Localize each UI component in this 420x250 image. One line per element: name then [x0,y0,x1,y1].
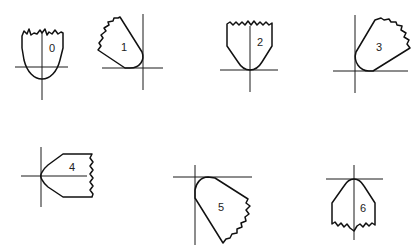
profile-2: 2 [220,21,278,92]
profile-label: 2 [257,36,263,48]
profile-label: 1 [121,41,127,53]
profile-label: 5 [218,201,224,213]
profile-label: 0 [49,42,55,54]
profile-3: 3 [333,15,410,93]
profile-0: 0 [15,29,68,100]
profile-outline [355,18,410,71]
profile-5: 5 [173,165,252,245]
profile-label: 3 [376,41,382,53]
profile-1: 1 [98,14,163,90]
profile-6: 6 [326,165,383,240]
profile-label: 6 [360,202,366,214]
tool-profile-diagram: 0 1 2 3 4 5 6 [0,0,420,250]
profile-4: 4 [21,147,93,207]
profile-label: 4 [69,161,75,173]
